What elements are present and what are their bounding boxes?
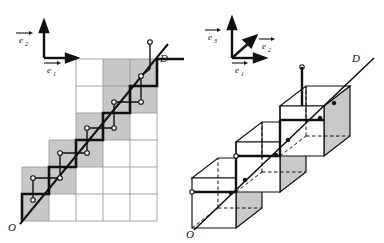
line-label-right: D [351, 52, 360, 64]
node-marker-filled [286, 138, 290, 142]
left-axes-group [40, 21, 77, 62]
axis-e2-arrowhead [40, 21, 48, 32]
node-marker-filled [274, 153, 278, 157]
axis-label-e1: e [47, 65, 51, 75]
axis-e1-arrowhead [254, 54, 265, 62]
shaded-cell [130, 86, 157, 113]
diagram-svg: e 2 e 1 O D [0, 0, 384, 243]
line-label-left: D [159, 52, 168, 64]
node-marker [112, 100, 117, 105]
node-marker [85, 126, 90, 131]
node-marker [112, 126, 117, 131]
axis-label-e1r: e [235, 65, 239, 75]
node-marker-filled [318, 116, 322, 120]
label-e1-right: e 1 [232, 61, 248, 77]
axis-label-e3-sub: 3 [213, 38, 217, 44]
axis-label-e1r-sub: 1 [241, 71, 244, 77]
shaded-cell [103, 59, 130, 86]
vector-bar-arrow-e2 [29, 31, 33, 35]
label-e2-left: e 2 [16, 31, 33, 47]
right-panel: e 3 e 2 e 1 O D [186, 18, 374, 240]
axis-label-e1-sub: 1 [53, 71, 56, 77]
label-e1-left: e 1 [44, 61, 61, 77]
node-marker-filled [243, 178, 247, 182]
axis-label-e3: e [208, 32, 212, 42]
vector-bar-arrow-e1r [244, 61, 248, 65]
node-marker-filled [332, 101, 336, 105]
node-marker-open [190, 190, 194, 194]
left-panel: e 2 e 1 O D [8, 21, 184, 233]
origin-label-right: O [186, 228, 194, 240]
origin-label-left: O [8, 221, 16, 233]
node-marker [31, 198, 36, 203]
shaded-cell [103, 86, 130, 113]
node-marker [139, 100, 144, 105]
vector-bar-arrow-e3 [217, 28, 221, 32]
node-marker [58, 176, 63, 181]
axis-e3-arrowhead [228, 18, 236, 29]
label-e2-right: e 2 [259, 37, 275, 53]
shaded-cell [22, 167, 49, 194]
label-e3-right: e 3 [205, 28, 221, 44]
axis-label-e2: e [19, 35, 23, 45]
voxel-front-face [280, 106, 324, 156]
digital-line-D [20, 44, 168, 224]
axis-label-e2r: e [262, 41, 266, 51]
axis-e1-arrowhead [66, 54, 77, 62]
axis-label-e2-sub: 2 [25, 41, 28, 47]
node-marker-filled [229, 191, 233, 195]
node-marker [139, 74, 144, 79]
node-marker [58, 151, 63, 156]
node-marker [31, 176, 36, 181]
axis-label-e2r-sub: 2 [268, 47, 271, 53]
right-axes-group [228, 18, 265, 62]
node-marker [148, 40, 153, 45]
figure-root: e 2 e 1 O D [0, 0, 384, 243]
node-marker [85, 151, 90, 156]
voxel-front-face [192, 178, 236, 228]
vector-bar-arrow-e2r [271, 37, 275, 41]
vector-bar-arrow-e1 [57, 61, 61, 65]
node-marker-open [234, 154, 238, 158]
